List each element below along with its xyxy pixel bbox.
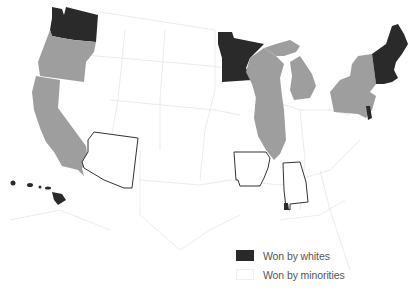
state-washington — [50, 7, 98, 42]
state-michigan — [290, 56, 316, 100]
state-illinois — [254, 96, 286, 160]
state-arkansas — [234, 152, 270, 186]
legend-swatch-dark — [236, 250, 254, 261]
legend-item-whites: Won by whites — [236, 246, 345, 265]
legend-swatch-white — [236, 269, 254, 280]
legend-label-minorities: Won by minorities — [263, 269, 345, 281]
state-hawaii — [11, 181, 67, 206]
state-california — [32, 76, 88, 176]
state-arizona — [82, 132, 138, 188]
state-new-england — [372, 24, 408, 84]
legend: Won by whites Won by minorities — [236, 246, 345, 284]
legend-item-minorities: Won by minorities — [236, 265, 345, 284]
legend-label-whites: Won by whites — [263, 250, 330, 262]
us-map — [0, 0, 416, 292]
